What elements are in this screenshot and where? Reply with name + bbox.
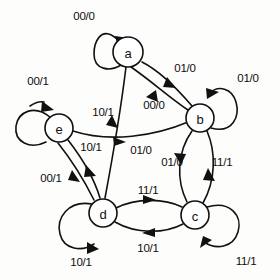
edge-d-to-c (116, 195, 182, 208)
state-node-d[interactable]: d (89, 199, 117, 227)
edge-e-to-d-arrowhead (84, 165, 96, 177)
edge-e-to-b-path (73, 122, 188, 137)
state-node-a-label: a (124, 46, 132, 61)
edge-c-to-d-arrowhead (142, 228, 155, 237)
state-node-e-label: e (55, 122, 62, 137)
edge-a-to-d-path (105, 67, 126, 198)
edge-label-e-to-d: 10/1 (80, 141, 102, 153)
self-loop-label-c: 11/1 (236, 255, 257, 267)
self-loop-label-a: 00/0 (73, 10, 95, 22)
edge-c-to-d-path (115, 222, 183, 231)
edge-a-to-d (105, 67, 126, 198)
self-loop-e-arrowhead (41, 101, 54, 112)
edge-label-b-to-a: 00/0 (143, 99, 165, 111)
edge-e-to-b-arrowhead (113, 137, 126, 146)
self-loop-c-arrowhead (200, 236, 212, 248)
edge-c-to-d (115, 222, 183, 237)
edge-label-c-to-d: 10/1 (137, 242, 159, 254)
fsm-diagram: a b c d e 00/0 01/0 11/1 10/1 00/1 01/0 … (0, 0, 280, 280)
edge-label-d-to-e: 00/1 (40, 172, 62, 184)
state-node-e[interactable]: e (45, 114, 73, 142)
self-loop-label-e: 00/1 (27, 75, 49, 87)
edge-label-a-to-d: 10/1 (92, 106, 114, 118)
state-node-c-label: c (192, 209, 199, 224)
state-node-a[interactable]: a (113, 37, 143, 67)
state-node-b-label: b (196, 112, 203, 127)
edge-label-e-to-b: 01/0 (130, 144, 152, 156)
edge-label-d-to-c: 11/1 (138, 184, 159, 196)
state-node-c[interactable]: c (181, 201, 209, 229)
self-loop-label-d: 10/1 (70, 256, 92, 268)
fsm-canvas: a b c d e 00/0 01/0 11/1 10/1 00/1 01/0 … (0, 0, 280, 280)
edge-label-a-to-b: 01/0 (174, 62, 196, 74)
self-loop-label-b: 01/0 (237, 72, 259, 84)
state-node-b[interactable]: b (186, 104, 214, 132)
state-node-d-label: d (99, 207, 106, 222)
edge-label-c-to-b: 01/0 (161, 156, 183, 168)
edge-d-to-c-arrowhead (143, 195, 156, 204)
edge-label-b-to-c: 11/1 (212, 156, 233, 168)
